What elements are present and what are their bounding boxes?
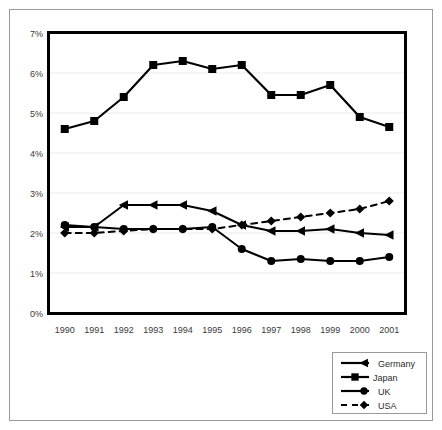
data-point-marker [384,230,393,240]
y-tick-label: 5% [30,109,43,119]
y-tick-label: 4% [30,149,43,159]
data-point-marker [61,221,69,229]
data-point-marker [267,257,275,265]
data-point-marker [385,123,393,131]
chart-figure: 7%6%5%4%3%2%1%0% 19901991199219931994199… [0,0,442,430]
data-point-marker [355,204,364,213]
x-tick-label: 2000 [350,325,370,335]
data-point-marker [326,81,334,89]
legend-label: UK [378,387,391,397]
data-point-marker [148,200,157,210]
grid-lines [50,73,404,273]
data-point-marker [267,216,276,225]
y-tick-label: 6% [30,69,43,79]
data-series-layer [60,57,394,265]
data-point-marker [385,196,394,205]
legend-marker [351,373,358,380]
x-tick-label: 1993 [143,325,163,335]
x-tick-label: 1991 [84,325,104,335]
series-germany [60,200,394,240]
legend-item-uk[interactable]: UK [341,387,391,397]
x-axis-tick-labels: 1990199119921993199419951996199719981999… [55,325,400,335]
data-point-marker [296,212,305,221]
y-tick-label: 0% [30,309,43,319]
data-point-marker [297,91,305,99]
data-point-marker [238,245,246,253]
legend-content: GermanyJapanUKUSA [333,353,426,413]
y-axis-tick-labels: 7%6%5%4%3%2%1%0% [30,29,43,319]
data-point-marker [149,224,158,233]
x-tick-label: 1998 [291,325,311,335]
data-point-marker [325,224,334,234]
series-line [65,205,390,235]
legend-marker [360,401,368,409]
legend-marker [360,387,367,394]
data-point-marker [385,253,393,261]
legend-label: USA [378,401,397,411]
data-point-marker [326,257,334,265]
x-tick-label: 2001 [379,325,399,335]
data-point-marker [178,200,187,210]
y-tick-label: 7% [30,29,43,39]
legend-marker [359,359,368,368]
data-point-marker [296,226,305,236]
data-point-marker [208,65,216,73]
data-point-marker [297,255,305,263]
legend-label: Japan [373,373,398,383]
data-point-marker [149,61,157,69]
legend-item-germany[interactable]: Germany [341,359,416,369]
series-line [65,61,390,129]
x-tick-label: 1992 [114,325,134,335]
data-point-marker [356,257,364,265]
data-point-marker [178,224,187,233]
x-tick-label: 1997 [261,325,281,335]
data-point-marker [120,93,128,101]
data-point-marker [207,206,216,216]
legend-item-usa[interactable]: USA [341,401,397,411]
data-point-marker [326,208,335,217]
data-point-marker [90,117,98,125]
plot-area-frame [49,33,406,314]
data-point-marker [266,226,275,236]
data-point-marker [179,57,187,65]
x-tick-label: 1990 [55,325,75,335]
x-tick-label: 1994 [173,325,193,335]
x-tick-label: 1995 [202,325,222,335]
x-tick-label: 1999 [320,325,340,335]
chart-legend: GermanyJapanUKUSA [332,352,427,414]
data-point-marker [61,125,69,133]
data-point-marker [238,61,246,69]
y-tick-label: 1% [30,269,43,279]
y-tick-label: 3% [30,189,43,199]
series-uk [61,221,394,265]
series-japan [61,57,394,133]
data-point-marker [267,91,275,99]
legend-label: Germany [378,359,416,369]
y-tick-label: 2% [30,229,43,239]
data-point-marker [355,228,364,238]
legend-item-japan[interactable]: Japan [341,373,398,383]
data-point-marker [356,113,364,121]
x-tick-label: 1996 [232,325,252,335]
